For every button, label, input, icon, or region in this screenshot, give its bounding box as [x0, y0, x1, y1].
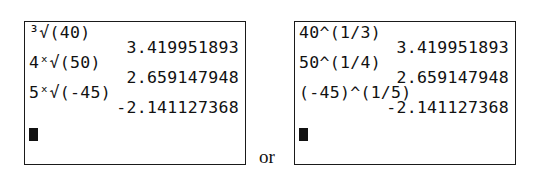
result-line-3: -2.141127368 [299, 100, 509, 115]
calculator-screen-left: ³√(40) 3.419951893 4ˣ√(50) 2.659147948 5… [24, 21, 246, 165]
cursor-block-icon [29, 128, 38, 141]
separator-label: or [259, 146, 275, 168]
calculator-screen-right: 40^(1/3) 3.419951893 50^(1/4) 2.65914794… [294, 21, 516, 165]
cursor-block-icon [299, 128, 308, 141]
result-line-3: -2.141127368 [29, 100, 239, 115]
